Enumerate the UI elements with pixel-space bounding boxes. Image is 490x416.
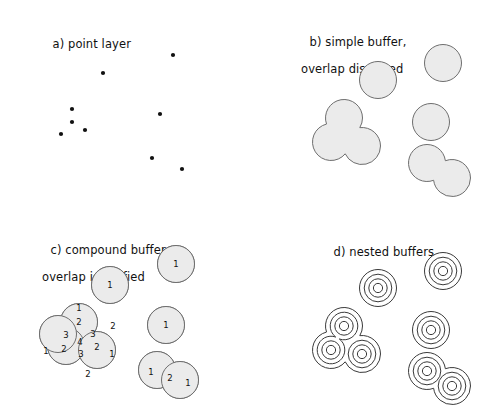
overlap-count-label: 1 xyxy=(173,259,178,269)
map-point xyxy=(59,132,63,136)
nested-buffer-ring xyxy=(434,262,452,280)
nested-buffer-ring xyxy=(357,349,366,358)
figure-buffer-types: a) point layer b) simple buffer, overlap… xyxy=(0,0,490,416)
map-point xyxy=(83,128,87,132)
overlap-count-label: 2 xyxy=(61,344,66,354)
nested-buffer-ring xyxy=(369,279,387,297)
panel-c-compound-buffer: c) compound buffer, overlap identified 1… xyxy=(0,208,245,416)
map-point xyxy=(150,156,154,160)
panel-a-point-layer: a) point layer xyxy=(0,0,245,208)
overlap-count-label: 3 xyxy=(78,349,83,359)
overlap-count-label: 1 xyxy=(43,346,48,356)
nested-buffer-ring xyxy=(418,362,436,380)
overlap-count-label: 3 xyxy=(90,329,95,339)
overlap-count-label: 1 xyxy=(107,280,112,290)
overlap-count-label: 1 xyxy=(163,320,168,330)
nested-buffer-ring xyxy=(339,321,348,330)
nested-buffer-ring xyxy=(413,312,450,349)
nested-buffer-ring xyxy=(443,377,461,395)
dissolved-buffer-shape xyxy=(425,45,462,82)
map-point xyxy=(101,71,105,75)
overlap-count-label: 2 xyxy=(167,373,172,383)
overlap-count-label: 1 xyxy=(76,303,81,313)
overlap-count-label: 4 xyxy=(77,337,82,347)
map-point xyxy=(70,107,74,111)
overlap-count-label: 2 xyxy=(110,321,115,331)
map-point xyxy=(180,167,184,171)
map-point xyxy=(158,112,162,116)
panel-d-nested-buffers: d) nested buffers xyxy=(245,208,490,416)
dissolved-buffer-shape xyxy=(312,99,380,164)
nested-buffer-ring xyxy=(425,253,462,290)
nested-buffer-ring xyxy=(353,345,371,363)
panel-d-canvas xyxy=(245,208,490,416)
nested-buffer-ring xyxy=(360,269,397,306)
map-point xyxy=(70,120,74,124)
dissolved-buffer-shape xyxy=(409,145,471,197)
nested-buffer-ring xyxy=(422,321,440,339)
nested-buffer-ring xyxy=(447,381,456,390)
panel-b-simple-buffer: b) simple buffer, overlap dissolved xyxy=(245,0,490,208)
nested-buffer-ring xyxy=(426,325,435,334)
overlap-count-label: 1 xyxy=(185,378,190,388)
nested-buffer-ring xyxy=(438,266,447,275)
overlap-count-label: 1 xyxy=(148,367,153,377)
dissolved-buffer-shape xyxy=(360,61,397,98)
overlap-count-label: 1 xyxy=(109,349,114,359)
panel-a-canvas xyxy=(0,0,245,208)
nested-buffer-ring xyxy=(322,341,340,359)
nested-buffer-ring xyxy=(326,345,335,354)
overlap-count-label: 2 xyxy=(76,317,81,327)
nested-buffer-ring xyxy=(373,283,382,292)
overlap-count-label: 2 xyxy=(94,342,99,352)
panel-c-canvas: 111122334123212121 xyxy=(0,208,245,416)
nested-buffer-ring xyxy=(422,366,431,375)
nested-buffer-group xyxy=(312,253,470,405)
overlap-count-label: 2 xyxy=(85,369,90,379)
nested-buffer-ring xyxy=(335,317,353,335)
overlap-count-label: 3 xyxy=(63,330,68,340)
dissolved-buffer-shape xyxy=(413,104,450,141)
map-point xyxy=(171,53,175,57)
point-group xyxy=(59,53,184,171)
dissolved-buffer-group xyxy=(312,45,470,197)
panel-b-canvas xyxy=(245,0,490,208)
